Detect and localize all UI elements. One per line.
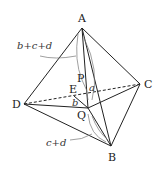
edge-CB [111, 84, 140, 146]
label-C: C [144, 78, 152, 91]
arc-cd [88, 114, 106, 142]
label-cd: c+d [46, 137, 66, 148]
edge-AC [82, 28, 140, 84]
leader-bcd [40, 56, 76, 58]
tetrahedron-diagram: A B C D P Q E a b b+c+d c+d [0, 0, 161, 169]
label-A: A [77, 12, 87, 25]
label-D: D [12, 98, 21, 111]
label-B: B [108, 151, 116, 164]
line-CQ [88, 84, 140, 108]
label-E: E [69, 83, 77, 96]
label-Q: Q [77, 109, 86, 122]
label-b: b [72, 97, 78, 108]
label-bcd: b+c+d [17, 40, 52, 51]
label-P: P [77, 72, 85, 85]
label-a: a [89, 82, 95, 93]
edge-DC-hidden [24, 84, 140, 104]
